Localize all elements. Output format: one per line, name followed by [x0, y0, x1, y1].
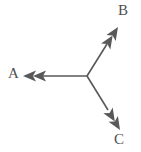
vector-diagram: A B C	[0, 0, 141, 152]
vector-c-arrowheads	[103, 108, 124, 133]
vector-c	[87, 76, 125, 133]
vector-b-shaft	[87, 44, 107, 76]
vector-diagram-canvas	[0, 0, 141, 152]
vector-a	[23, 71, 87, 82]
vector-label-a: A	[8, 66, 19, 81]
vector-b-arrowheads	[101, 24, 123, 49]
vector-label-b: B	[118, 3, 128, 18]
vector-b	[87, 24, 123, 76]
vector-c-shaft	[87, 76, 108, 110]
vector-label-c: C	[114, 132, 124, 147]
